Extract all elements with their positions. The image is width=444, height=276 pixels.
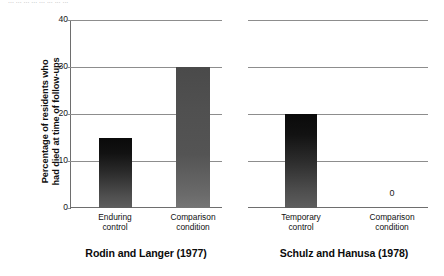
panel-title-schulz-hanusa: Schulz and Hanusa (1978) xyxy=(244,247,444,259)
category-label-line-2: control xyxy=(266,222,336,232)
panel-2-gridline-10 xyxy=(248,161,428,162)
panel-2-gridline-20 xyxy=(248,114,428,115)
category-label-line-1: Comparison xyxy=(158,212,228,222)
category-label-comparison-condition-1: Comparison condition xyxy=(158,212,228,232)
panel-2-gridline-30 xyxy=(248,67,428,68)
category-label-line-2: condition xyxy=(357,222,427,232)
category-label-line-1: Enduring xyxy=(80,212,150,222)
category-label-line-2: control xyxy=(80,222,150,232)
panel-1-tick-0 xyxy=(66,208,70,209)
y-axis-tick-labels: 40 30 20 10 0 xyxy=(50,0,68,276)
panel-1-plot-area xyxy=(70,20,222,208)
category-label-line-1: Temporary xyxy=(266,212,336,222)
panel-2-gridline-40 xyxy=(248,20,428,21)
panel-2-plot-area: 0 xyxy=(248,20,428,208)
category-label-line-2: condition xyxy=(158,222,228,232)
panel-1-tick-20 xyxy=(66,114,70,115)
panel-1-gridline-40 xyxy=(70,20,222,21)
panel-2-x-axis-line xyxy=(248,207,428,208)
panel-1-tick-10 xyxy=(66,161,70,162)
bar-enduring-control[interactable] xyxy=(99,138,132,209)
category-label-enduring-control: Enduring control xyxy=(80,212,150,232)
figure-bar-chart: ... ... ... ... ... ... ... ... Percenta… xyxy=(0,0,444,276)
category-label-line-1: Comparison xyxy=(357,212,427,222)
bar-comparison-condition-1[interactable] xyxy=(176,67,210,208)
panel-rodin-langer: Enduring control Comparison condition Ro… xyxy=(70,0,222,276)
category-label-comparison-condition-2: Comparison condition xyxy=(357,212,427,232)
panel-title-rodin-langer: Rodin and Langer (1977) xyxy=(54,247,238,259)
panel-1-tick-30 xyxy=(66,67,70,68)
bar-value-label-comparison-condition-2: 0 xyxy=(382,188,402,198)
category-label-temporary-control: Temporary control xyxy=(266,212,336,232)
panel-schulz-hanusa: 0 Temporary control Comparison condition… xyxy=(248,0,428,276)
bar-temporary-control[interactable] xyxy=(285,114,317,208)
panel-1-tick-40 xyxy=(66,20,70,21)
